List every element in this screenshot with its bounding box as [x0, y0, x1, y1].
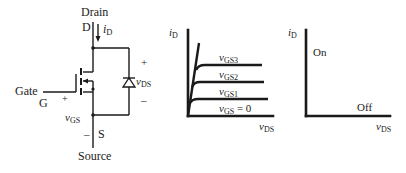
legend-vgs2: GS2 — [224, 73, 238, 82]
vds-sub: DS — [141, 80, 151, 89]
vgs-sub: GS — [70, 116, 80, 125]
id-sub: D — [106, 27, 112, 37]
gate-letter: G — [39, 96, 48, 110]
svg-text:vGS2: vGS2 — [219, 68, 238, 82]
drain-label: Drain — [81, 5, 108, 19]
legend-vgs0: GS — [224, 107, 234, 116]
source-letter: S — [98, 127, 105, 141]
mosfet-symbol-icon — [43, 48, 95, 95]
vgs-plus: + — [62, 93, 68, 104]
svg-text:vGS1: vGS1 — [219, 85, 238, 99]
ideal-switch-chart: iD On Off vDS — [288, 26, 391, 134]
source-label: Source — [78, 149, 111, 163]
svg-text:vGS3: vGS3 — [219, 51, 238, 65]
svg-text:vGS = 0: vGS = 0 — [219, 102, 252, 116]
drain-letter: D — [82, 20, 91, 34]
svg-text:iD: iD — [288, 26, 297, 40]
svg-text:iD: iD — [103, 22, 112, 37]
source-node — [91, 113, 95, 117]
gate-label: Gate — [15, 84, 38, 98]
svg-text:vDS: vDS — [136, 75, 151, 89]
on-label: On — [313, 46, 327, 58]
svg-text:vDS: vDS — [259, 120, 274, 134]
svg-text:iD: iD — [169, 26, 178, 40]
vgs-minus: – — [83, 128, 90, 140]
chart1-curve-vgs3 — [196, 65, 262, 70]
current-arrow-icon — [96, 24, 101, 42]
chart1-curve-vgs2 — [192, 82, 264, 87]
diagram-canvas: Drain D iD — [0, 0, 406, 173]
legend-vgs3: GS3 — [224, 56, 238, 65]
vds-plus: + — [141, 56, 147, 68]
svg-text:vGS: vGS — [65, 111, 80, 125]
off-label: Off — [357, 101, 372, 113]
chart1-curve-vgs1 — [190, 99, 268, 103]
svg-text:vDS: vDS — [376, 120, 391, 134]
output-characteristics-chart: iD vGS3 vGS2 vGS1 vGS = 0 vDS — [169, 26, 274, 134]
body-diode-icon — [123, 78, 135, 87]
vds-minus: – — [140, 94, 147, 106]
mosfet-circuit: Drain D iD — [15, 5, 151, 163]
legend-vgs1: GS1 — [224, 90, 238, 99]
chart1-ohmic-line — [188, 43, 199, 116]
